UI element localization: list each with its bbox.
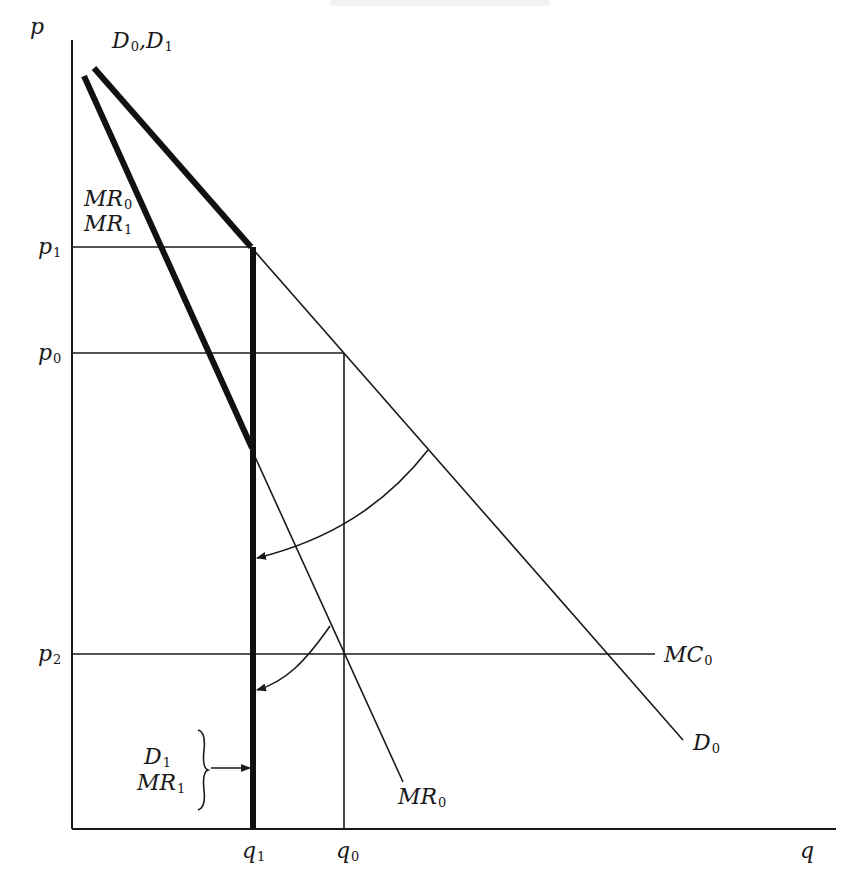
x-axis-label-text: q — [800, 838, 814, 863]
d0-curve — [251, 247, 683, 740]
d1-bracket-label: D1 — [144, 746, 171, 769]
y-axis-label-text: p — [30, 14, 44, 39]
mr0-top-label: MR0 — [84, 188, 132, 211]
p1-label: p1 — [38, 236, 61, 259]
x-axis-label: q — [800, 840, 814, 862]
q0-label: q0 — [336, 840, 359, 863]
curved-arrow-lower — [257, 626, 330, 690]
d0-label: D0 — [693, 732, 720, 755]
p2-label: p2 — [38, 643, 61, 666]
p0-label: p0 — [38, 342, 61, 365]
q1-label: q1 — [242, 840, 265, 863]
mr0-bottom-label: MR0 — [398, 786, 446, 809]
monopoly-diagram — [0, 0, 868, 892]
brace — [198, 730, 208, 810]
mc0-label: MC0 — [664, 644, 713, 667]
curved-arrow-upper — [257, 450, 428, 558]
y-axis-label: p — [30, 16, 44, 38]
d0-d1-label: D0,D1 — [112, 30, 173, 53]
mr1-bracket-label: MR1 — [137, 772, 185, 795]
mr0-mr1-thick-segment — [84, 76, 252, 448]
mr1-top-label: MR1 — [84, 213, 132, 236]
